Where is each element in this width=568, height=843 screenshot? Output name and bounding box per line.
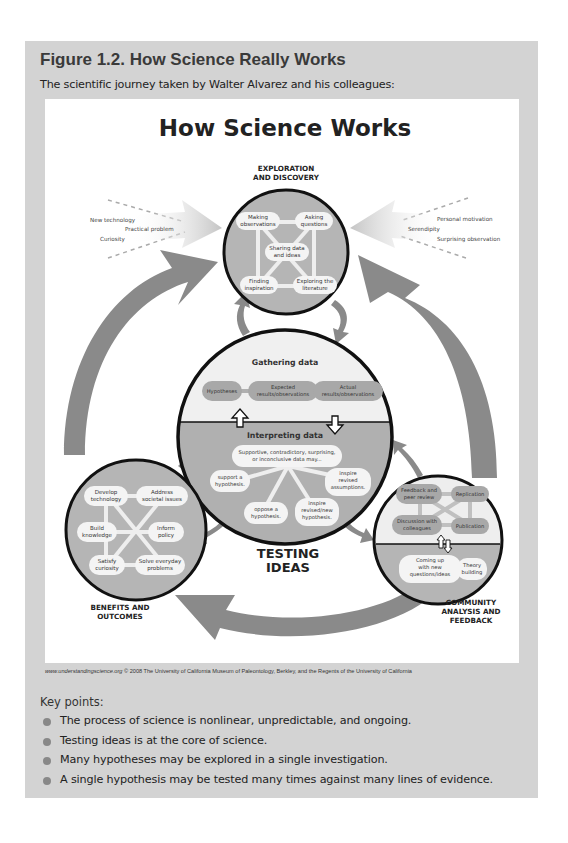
node-oppose-2: hypothesis. <box>251 513 281 520</box>
node-expected-1: Expected <box>271 384 295 391</box>
node-finding-inspiration-2: inspiration <box>244 285 274 292</box>
key-points-list: The process of science is nonlinear, unp… <box>40 714 493 792</box>
bullet-icon <box>43 738 51 746</box>
node-satisfy-curiosity-1: Satisfy <box>98 558 117 565</box>
interpreting-title: Interpreting data <box>247 431 323 440</box>
community-label-1: COMMUNITY <box>446 598 497 607</box>
credit-site-link[interactable]: www.understandingscience.org <box>45 668 122 674</box>
key-point-text: A single hypothesis may be tested many t… <box>60 773 493 786</box>
benefits-label-1: BENEFITS AND <box>90 603 149 612</box>
node-replication: Replication <box>456 491 485 498</box>
node-solve-problems-1: Solve everyday <box>139 558 182 565</box>
node-solve-problems-2: problems <box>147 565 173 572</box>
community-label-3: FEEDBACK <box>450 616 493 625</box>
copyright-credit: www.understandingscience.org © 2008 The … <box>45 668 412 674</box>
node-sharing-data-2: and ideas <box>274 252 301 258</box>
node-develop-technology-1: Develop <box>95 489 118 496</box>
key-points-title: Key points: <box>40 695 104 709</box>
testing-label-1: TESTING <box>257 546 319 561</box>
node-new-questions-1: Coming up <box>416 557 445 564</box>
node-discussion-2: colleagues <box>403 525 431 532</box>
node-support-2: hypothesis. <box>215 481 245 488</box>
node-inspire-assumptions-3: assumptions. <box>331 484 366 491</box>
left-input-2: Curiosity <box>100 236 125 243</box>
node-build-knowledge-2: knowledge <box>82 532 112 539</box>
node-inform-policy-1: Inform <box>157 525 175 531</box>
node-making-observations-2: observations <box>240 221 276 227</box>
node-address-issues-1: Address <box>151 489 173 495</box>
node-new-questions-2: with new <box>418 564 442 570</box>
key-point-item: The process of science is nonlinear, unp… <box>40 714 493 734</box>
bullet-icon <box>43 777 51 785</box>
key-point-text: The process of science is nonlinear, unp… <box>60 714 411 727</box>
key-point-text: Many hypotheses may be explored in a sin… <box>60 753 388 766</box>
node-new-questions-3: questions/ideas <box>410 571 451 578</box>
node-develop-technology-2: technology <box>91 496 122 503</box>
node-oppose-1: oppose a <box>254 506 278 513</box>
key-point-item: A single hypothesis may be tested many t… <box>40 773 493 793</box>
node-publication: Publication <box>456 523 484 529</box>
right-input-1: Serendipity <box>408 226 441 233</box>
node-inspire-new-2: revised/new <box>301 507 333 513</box>
node-theory-building-1: Theory <box>462 562 481 569</box>
node-exploring-literature-2: literature <box>302 285 328 291</box>
testing-label-2: IDEAS <box>266 560 310 575</box>
node-data-may-2: or inconclusive data may... <box>252 456 322 463</box>
node-asking-questions-2: questions <box>301 221 328 228</box>
node-inspire-assumptions-1: inspire <box>339 470 356 477</box>
exploration-label-1: EXPLORATION <box>258 164 314 173</box>
node-making-observations-1: Making <box>248 214 268 221</box>
diagram-title: How Science Works <box>159 115 411 141</box>
node-finding-inspiration-1: Finding <box>249 278 269 285</box>
node-actual-2: results/observations <box>322 391 375 397</box>
credit-text: © 2008 The University of California Muse… <box>122 668 412 674</box>
node-asking-questions-1: Asking <box>305 214 323 221</box>
exploration-circle: Making observations Asking questions Sha… <box>224 190 348 314</box>
bullet-icon <box>43 718 51 726</box>
right-input-2: Surprising observation <box>437 236 501 243</box>
key-point-text: Testing ideas is at the core of science. <box>60 734 267 747</box>
node-support-1: support a <box>218 474 243 481</box>
node-discussion-1: Discussion with <box>397 518 437 524</box>
key-point-item: Many hypotheses may be explored in a sin… <box>40 753 493 773</box>
input-arrow-left <box>130 200 222 248</box>
benefits-circle: Develop technology Address societal issu… <box>66 460 206 600</box>
node-address-issues-2: societal issues <box>142 496 182 502</box>
node-feedback-review-2: peer review <box>404 494 435 501</box>
node-sharing-data-1: Sharing data <box>269 245 304 252</box>
node-inspire-new-1: inspire <box>308 500 325 507</box>
node-actual-1: Actual <box>340 384 356 390</box>
left-input-1: Practical problem <box>125 226 174 233</box>
right-input-0: Personal motivation <box>437 216 493 222</box>
right-inputs: Personal motivation Serendipity Surprisi… <box>350 198 501 258</box>
community-label-2: ANALYSIS AND <box>442 607 501 616</box>
node-expected-2: results/observations <box>257 391 310 397</box>
benefits-label-2: OUTCOMES <box>97 612 142 621</box>
node-theory-building-2: building <box>462 569 483 576</box>
node-inform-policy-2: policy <box>158 532 175 539</box>
key-point-item: Testing ideas is at the core of science. <box>40 734 493 754</box>
node-data-may-1: Supportive, contradictory, surprising, <box>239 449 336 456</box>
node-inspire-assumptions-2: revised <box>339 477 358 483</box>
node-exploring-literature-1: Exploring the <box>297 278 334 285</box>
arrow-exploration-to-testing <box>331 300 349 344</box>
exploration-label-2: AND DISCOVERY <box>253 173 320 182</box>
node-hypotheses: Hypotheses <box>207 388 238 395</box>
arrow-community-to-testing <box>393 440 423 478</box>
node-build-knowledge-1: Build <box>90 525 104 531</box>
gathering-title: Gathering data <box>252 358 318 367</box>
node-feedback-review-1: Feedback and <box>401 487 437 493</box>
bullet-icon <box>43 757 51 765</box>
node-inspire-new-3: hypothesis. <box>302 514 332 521</box>
left-inputs: New technology Practical problem Curiosi… <box>90 200 222 258</box>
node-satisfy-curiosity-2: curiosity <box>95 565 119 572</box>
left-input-0: New technology <box>90 217 136 224</box>
input-arrow-right <box>350 200 445 248</box>
community-circle: Feedback and peer review Replication Dis… <box>370 476 510 614</box>
